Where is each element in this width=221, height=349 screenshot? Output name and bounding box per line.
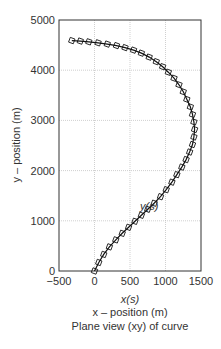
annotation-ys: y(s) — [139, 200, 159, 212]
svg-text:2000: 2000 — [31, 165, 55, 177]
svg-text:5000: 5000 — [31, 14, 55, 26]
svg-text:1000: 1000 — [31, 215, 55, 227]
square-marker — [69, 37, 75, 43]
grid-lines — [59, 20, 201, 271]
svg-text:1500: 1500 — [189, 275, 213, 287]
y-axis-label: y – position (m) — [10, 107, 22, 182]
svg-text:4000: 4000 — [31, 64, 55, 76]
plane-view-chart: −500050010001500 010002000300040005000 y… — [0, 0, 221, 349]
svg-text:3000: 3000 — [31, 114, 55, 126]
svg-text:500: 500 — [121, 275, 139, 287]
plot-frame — [59, 20, 201, 271]
svg-text:0: 0 — [49, 265, 55, 277]
curve-markers — [69, 37, 198, 274]
curve-line — [72, 41, 195, 271]
chart-caption: Plane view (xy) of curve — [72, 320, 189, 332]
svg-text:0: 0 — [91, 275, 97, 287]
svg-text:1000: 1000 — [153, 275, 177, 287]
x-tick-labels: −500050010001500 — [47, 275, 214, 287]
x-sublabel: x(s) — [120, 293, 140, 305]
y-tick-labels: 010002000300040005000 — [31, 14, 55, 277]
x-axis-label: x – position (m) — [92, 306, 167, 318]
